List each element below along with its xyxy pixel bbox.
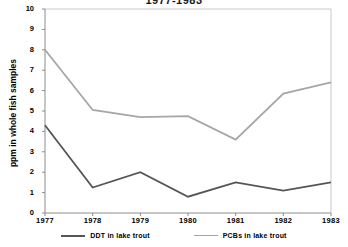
x-axis-tick-label: 1979 xyxy=(120,216,160,225)
legend-item-pcbs[interactable]: PCBs in lake trout xyxy=(194,232,287,239)
x-axis-tick-label: 1978 xyxy=(73,216,113,225)
x-axis-tick-label: 1981 xyxy=(216,216,256,225)
chart-container: 1977-1983 ppm in whole fish samples 0123… xyxy=(0,0,348,247)
series-line-ddt xyxy=(45,125,331,196)
legend-label: DDT in lake trout xyxy=(90,232,149,239)
legend-swatch-icon xyxy=(61,235,85,237)
legend-label: PCBs in lake trout xyxy=(223,232,287,239)
x-axis-tick-label: 1982 xyxy=(263,216,303,225)
x-axis-tick-label: 1977 xyxy=(25,216,65,225)
plot-area xyxy=(0,0,348,247)
series-line-pcbs xyxy=(45,50,331,140)
legend-item-ddt[interactable]: DDT in lake trout xyxy=(61,232,149,239)
x-axis-tick-label: 1980 xyxy=(168,216,208,225)
chart-legend: DDT in lake troutPCBs in lake trout xyxy=(0,232,348,239)
legend-swatch-icon xyxy=(194,235,218,236)
x-axis-tick-label: 1983 xyxy=(311,216,348,225)
